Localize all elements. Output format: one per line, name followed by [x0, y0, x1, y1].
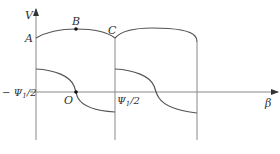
- origin-dot: [74, 90, 78, 94]
- point-b-label: B: [71, 15, 80, 28]
- velocity-diagram: V β A B C O − Ψ1/2 Ψ1/2: [0, 0, 280, 154]
- x-axis-label: β: [264, 97, 271, 110]
- y-axis-label: V: [25, 9, 34, 22]
- origin-label: O: [64, 94, 73, 107]
- point-c-label: C: [108, 24, 117, 37]
- neg-half-psi-label: − Ψ1/2: [2, 87, 37, 100]
- upper-curve-arch-2: [115, 28, 197, 42]
- half-psi-label: Ψ1/2: [117, 95, 140, 108]
- point-a-label: A: [24, 32, 33, 45]
